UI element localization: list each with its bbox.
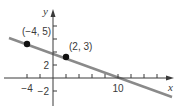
coordinate-plane: −4 10 2 −2 y x (−4, 5) (2, 3): [0, 0, 182, 109]
y-axis-arrow-icon: [51, 9, 56, 17]
point-label-neg4-5: (−4, 5): [22, 26, 51, 37]
y-tick-label-2: 2: [43, 60, 49, 71]
x-tick-label-neg4: −4: [21, 83, 33, 94]
x-axis-label: x: [167, 81, 173, 93]
y-tick-label-neg2: −2: [38, 86, 50, 97]
point-2-3: [63, 54, 69, 60]
point-label-2-3: (2, 3): [69, 41, 92, 52]
point-neg4-5: [24, 41, 30, 47]
x-axis-arrow-icon: [166, 76, 174, 81]
y-ticks: [53, 26, 57, 91]
x-tick-label-10: 10: [112, 83, 124, 94]
x-ticks: [27, 74, 157, 78]
y-axis-label: y: [42, 5, 48, 17]
